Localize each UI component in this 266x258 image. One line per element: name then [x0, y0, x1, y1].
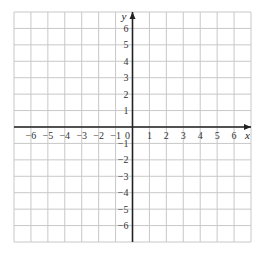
x-tick-label: 4 [198, 130, 203, 141]
y-tick-label: −6 [118, 220, 129, 231]
y-tick-label: 2 [124, 89, 129, 100]
y-tick-label: −1 [118, 138, 129, 149]
y-axis-arrow-icon [130, 12, 136, 19]
x-tick-label: 5 [215, 130, 220, 141]
coordinate-plane: −6−5−4−3−2−10123456 −6−5−4−3−2−1123456 x… [0, 0, 266, 258]
x-tick-label: −5 [43, 130, 54, 141]
y-tick-label: −2 [118, 154, 129, 165]
y-tick-label: −3 [118, 171, 129, 182]
x-tick-label: −2 [93, 130, 104, 141]
x-tick-label: 2 [164, 130, 169, 141]
y-tick-label: 4 [124, 56, 129, 67]
x-tick-label: 3 [181, 130, 186, 141]
y-tick-label: 5 [124, 39, 129, 50]
y-tick-label: −5 [118, 204, 129, 215]
x-tick-label: 1 [147, 130, 152, 141]
x-tick-labels: −6−5−4−3−2−10123456 [26, 130, 237, 141]
y-tick-label: −4 [118, 187, 129, 198]
x-tick-label: −6 [26, 130, 37, 141]
y-tick-label: 1 [124, 105, 129, 116]
y-tick-label: 3 [124, 72, 129, 83]
y-tick-label: 6 [124, 23, 129, 34]
x-tick-label: −3 [76, 130, 87, 141]
x-tick-label: 6 [232, 130, 237, 141]
axes [14, 12, 251, 242]
x-tick-label: −4 [59, 130, 70, 141]
y-axis-label: y [121, 10, 127, 22]
x-axis-label: x [244, 129, 250, 141]
